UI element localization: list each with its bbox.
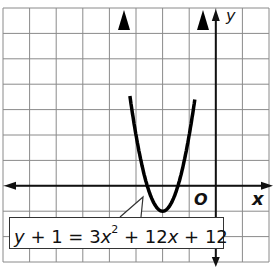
origin-label: O: [194, 190, 208, 209]
eq-exponent: 2: [111, 223, 118, 236]
eq-var: x: [168, 226, 179, 247]
eq-part: y + 1 = 3: [14, 226, 101, 247]
eq-part: + 12: [118, 226, 167, 247]
equation-label: y + 1 = 3x2 + 12x + 12: [9, 217, 224, 249]
eq-var: x: [101, 226, 112, 247]
graph: y x O y + 1 = 3x2 + 12x + 12: [0, 0, 276, 269]
y-axis-label: y: [226, 6, 235, 25]
eq-part: + 12: [178, 226, 227, 247]
x-axis-label: x: [252, 188, 264, 209]
